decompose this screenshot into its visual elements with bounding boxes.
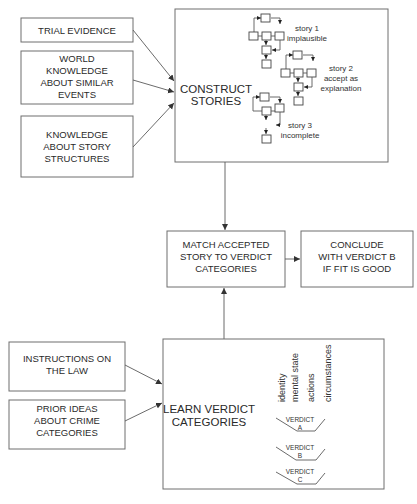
trial-evidence-label: TRIAL EVIDENCE (38, 25, 116, 36)
conclude-line-3: IF FIT IS GOOD (323, 263, 392, 274)
story-2-label: story 2 (329, 64, 354, 73)
world-knowledge-line-3: ABOUT SIMILAR (40, 77, 113, 88)
story-structures-line-3: STRUCTURES (45, 153, 110, 164)
world-knowledge-line-4: EVENTS (58, 89, 96, 100)
arrow-evidence-to-construct (133, 30, 174, 81)
world-knowledge-box: WORLD KNOWLEDGE ABOUT SIMILAR EVENTS (21, 51, 133, 104)
story-1-status: implausible (287, 34, 328, 43)
attribute-actions: actions (306, 373, 316, 402)
story-3-label: story 3 (288, 121, 313, 130)
prior-ideas-line-2: ABOUT CRIME (34, 415, 100, 426)
verdict-b-letter: B (298, 452, 302, 459)
construct-stories-line-1: CONSTRUCT (180, 83, 252, 95)
match-line-1: MATCH ACCEPTED (183, 239, 270, 250)
learn-verdict-line-2: CATEGORIES (172, 416, 247, 428)
match-line-2: STORY TO VERDICT (180, 251, 272, 262)
conclude-box: CONCLUDE WITH VERDICT B IF FIT IS GOOD (301, 231, 413, 287)
arrow-world-to-construct (133, 80, 174, 92)
prior-ideas-line-3: CATEGORIES (36, 427, 98, 438)
verdict-c-label: VERDICT (286, 468, 315, 475)
story-1-label: story 1 (295, 24, 320, 33)
instructions-line-2: THE LAW (46, 365, 88, 376)
instructions-law-box: INSTRUCTIONS ON THE LAW (9, 342, 125, 391)
prior-ideas-line-1: PRIOR IDEAS (36, 403, 97, 414)
verdict-a-label: VERDICT (286, 416, 315, 423)
story-structures-line-1: KNOWLEDGE (46, 129, 108, 140)
arrow-prior-to-learn (125, 403, 162, 421)
story-2-status-1: accept as (324, 74, 358, 83)
story-structures-line-2: ABOUT STORY (43, 141, 111, 152)
story-2-status-2: explanation (321, 84, 362, 93)
world-knowledge-line-1: WORLD (59, 53, 95, 64)
verdict-c-letter: C (298, 476, 303, 483)
attribute-identity: identity (277, 373, 287, 402)
instructions-line-1: INSTRUCTIONS ON (23, 353, 111, 364)
arrow-instructions-to-learn (125, 365, 162, 384)
trial-evidence-box: TRIAL EVIDENCE (21, 18, 133, 42)
conclude-line-1: CONCLUDE (330, 239, 383, 250)
attribute-mental-state: mental state (290, 353, 300, 402)
verdict-a-letter: A (298, 424, 303, 431)
attribute-circumstances: circumstances (323, 344, 333, 402)
verdict-b-label: VERDICT (286, 444, 315, 451)
world-knowledge-line-2: KNOWLEDGE (46, 65, 108, 76)
construct-stories-box: CONSTRUCT STORIES story 1 implausible (175, 9, 388, 162)
story-model-diagram: TRIAL EVIDENCE WORLD KNOWLEDGE ABOUT SIM… (0, 0, 417, 504)
prior-ideas-box: PRIOR IDEAS ABOUT CRIME CATEGORIES (9, 400, 125, 449)
arrow-structures-to-construct (133, 103, 174, 147)
construct-stories-line-2: STORIES (191, 95, 242, 107)
match-line-3: CATEGORIES (195, 263, 257, 274)
learn-verdict-box: LEARN VERDICT CATEGORIES identity mental… (163, 339, 384, 489)
story-structures-box: KNOWLEDGE ABOUT STORY STRUCTURES (21, 116, 133, 177)
story-3-status: incomplete (281, 131, 320, 140)
learn-verdict-line-1: LEARN VERDICT (163, 403, 255, 415)
conclude-line-2: WITH VERDICT B (318, 251, 395, 262)
match-box: MATCH ACCEPTED STORY TO VERDICT CATEGORI… (167, 231, 285, 287)
